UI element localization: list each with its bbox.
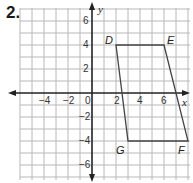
x-tick-label: −4 — [39, 95, 51, 106]
y-axis-down-arrow-icon — [89, 174, 95, 182]
y-axis-up-arrow-icon — [89, 2, 95, 10]
y-tick-label: 6 — [83, 15, 89, 26]
x-axis-left-arrow-icon — [8, 90, 16, 96]
vertex-label-f: F — [178, 144, 186, 156]
x-tick-label: −2 — [63, 95, 75, 106]
y-axis — [89, 2, 95, 182]
vertex-label-g: G — [116, 144, 125, 156]
x-tick-label: 2 — [114, 95, 120, 106]
vertex-label-e: E — [167, 34, 175, 46]
y-tick-label: 4 — [83, 39, 89, 50]
y-axis-label: y — [97, 3, 103, 15]
x-tick-label: 4 — [137, 95, 143, 106]
vertex-label-d: D — [105, 34, 113, 46]
coordinate-plane: y x −4 −2 0 2 4 6 6 4 2 −2 −4 −6 D E F G — [0, 0, 193, 183]
x-tick-label: 0 — [85, 95, 91, 106]
y-tick-label: 2 — [83, 63, 89, 74]
y-tick-label: −6 — [79, 159, 91, 170]
y-tick-label: −2 — [79, 111, 91, 122]
x-axis-label: x — [181, 96, 187, 108]
x-tick-label: 6 — [161, 95, 167, 106]
y-tick-label: −4 — [79, 135, 91, 146]
